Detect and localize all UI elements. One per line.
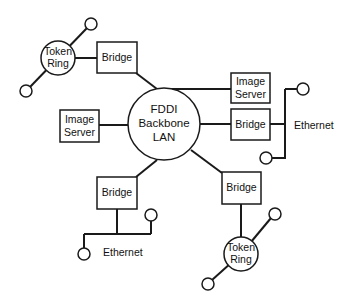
fddi-label-line2: Backbone — [138, 117, 189, 129]
bridge-bottom-left-node: Bridge — [97, 177, 137, 209]
bridge-right-label: Bridge — [235, 118, 266, 130]
bridge-bottom-right-node: Bridge — [222, 172, 261, 204]
station-icon — [78, 248, 90, 260]
token-ring-top-line1: Token — [44, 45, 72, 57]
station-icon — [145, 209, 157, 221]
ethernet-bottom-label: Ethernet — [103, 246, 143, 258]
image-server-right-line2: Server — [235, 88, 266, 100]
bridge-bottom-left-label: Bridge — [102, 186, 133, 198]
link-fddi-bridge-bottom-left — [136, 160, 157, 177]
image-server-left-line1: Image — [65, 113, 94, 125]
fddi-label-line1: FDDI — [151, 103, 178, 115]
image-server-right-node: Image Server — [231, 73, 270, 103]
bridge-bottom-right-label: Bridge — [226, 181, 257, 193]
token-ring-bottom-line2: Ring — [230, 253, 252, 265]
bridge-top-left-node: Bridge — [97, 42, 137, 73]
bridge-right-node: Bridge — [231, 109, 270, 140]
link-fddi-bridge-bottom-right — [191, 150, 222, 173]
ethernet-right-label: Ethernet — [294, 119, 334, 131]
token-ring-bottom-line1: Token — [227, 241, 255, 253]
station-icon — [269, 208, 281, 220]
station-icon — [85, 18, 97, 30]
bridge-top-left-label: Bridge — [102, 51, 133, 63]
image-server-right-line1: Image — [236, 75, 265, 87]
image-server-left-node: Image Server — [60, 110, 99, 142]
station-icon — [297, 83, 309, 95]
token-ring-top-line2: Ring — [47, 57, 69, 69]
station-icon — [202, 278, 214, 290]
station-icon — [20, 85, 32, 97]
station-icon — [260, 152, 272, 164]
link-bridge-top-left-fddi — [136, 73, 157, 89]
fddi-backbone-node: FDDI Backbone LAN — [128, 88, 200, 160]
fddi-label-line3: LAN — [153, 131, 175, 143]
image-server-left-line2: Server — [64, 126, 95, 138]
network-diagram: FDDI Backbone LAN Token Ring Bridge Imag… — [0, 0, 347, 305]
